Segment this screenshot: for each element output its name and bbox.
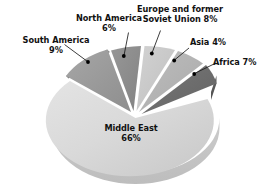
slice-label-africa-line1: Africa 7% (213, 58, 256, 68)
slice-label-south-america-line2: 9% (6, 46, 106, 56)
slice-label-asia-line1: Asia 4% (190, 38, 226, 48)
slice-label-africa: Africa 7% (213, 58, 256, 68)
pie-chart-figure: South America 9% North America 6% Europe… (0, 0, 272, 196)
slice-label-north-america-line2: 6% (60, 24, 158, 34)
slice-label-europe-soviet: Europe and former Soviet Union 8% (131, 5, 229, 25)
leader-dot-africa (192, 72, 196, 76)
slice-label-middle-east-line2: 66% (86, 134, 176, 144)
slice-label-europe-soviet-line2: Soviet Union 8% (131, 15, 229, 25)
leader-dot-europe-soviet (150, 52, 154, 56)
leader-dot-north-america (122, 54, 126, 58)
slice-label-south-america: South America 9% (6, 36, 106, 56)
slice-label-middle-east: Middle East 66% (86, 124, 176, 144)
leader-dot-south-america (86, 60, 90, 64)
slice-label-asia: Asia 4% (190, 38, 226, 48)
leader-dot-asia (172, 59, 176, 63)
